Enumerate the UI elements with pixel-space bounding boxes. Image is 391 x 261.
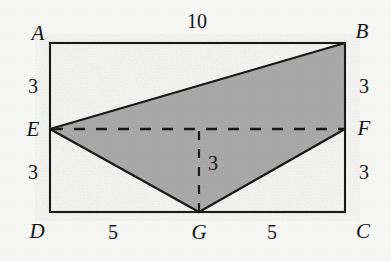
vertex-label-B: B — [356, 21, 369, 42]
vertex-label-F: F — [358, 118, 371, 139]
vertex-label-C: C — [356, 221, 370, 242]
measure-label-left-AE: 3 — [28, 76, 38, 96]
measure-label-top-AB: 10 — [187, 11, 207, 31]
measure-label-bottom-GC: 5 — [267, 222, 277, 242]
measure-label-right-BF: 3 — [359, 76, 369, 96]
vertex-label-E: E — [27, 119, 40, 140]
geometry-figure-page: A B C D E F G 10 3 3 3 3 3 5 5 — [0, 0, 391, 261]
shaded-region-EBFG — [50, 43, 345, 212]
vertex-label-A: A — [32, 23, 45, 44]
measure-label-left-ED: 3 — [28, 162, 38, 182]
measure-label-right-FC: 3 — [359, 162, 369, 182]
vertex-label-G: G — [191, 222, 206, 243]
vertex-label-D: D — [29, 221, 44, 242]
measure-label-bottom-DG: 5 — [108, 222, 118, 242]
measure-label-height-GH: 3 — [208, 153, 218, 173]
